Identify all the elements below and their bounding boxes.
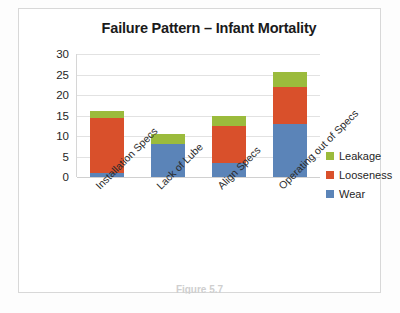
legend-swatch-icon [326, 190, 334, 198]
chart-legend: LeakageLoosenessWear [326, 147, 396, 204]
bar-segment-leakage [212, 116, 246, 126]
y-axis-tick-label: 15 [35, 110, 69, 122]
chart-title: Failure Pattern – Infant Mortality [59, 20, 359, 36]
legend-swatch-icon [326, 171, 334, 179]
y-axis-tick-label: 10 [35, 130, 69, 142]
legend-item[interactable]: Leakage [326, 147, 396, 164]
legend-item[interactable]: Looseness [326, 166, 396, 183]
legend-label: Looseness [339, 169, 392, 181]
plot-area [76, 54, 320, 177]
gridline [77, 54, 320, 55]
bar-segment-leakage [273, 72, 307, 86]
legend-item[interactable]: Wear [326, 185, 396, 202]
y-axis-tick-label: 0 [35, 171, 69, 183]
y-axis-tick-label: 25 [35, 69, 69, 81]
legend-label: Leakage [339, 150, 381, 162]
figure-frame: Failure Pattern – Infant Mortality Leaka… [18, 8, 381, 293]
y-axis-tick-label: 20 [35, 89, 69, 101]
legend-swatch-icon [326, 152, 334, 160]
bar-segment-looseness [273, 87, 307, 124]
legend-label: Wear [339, 188, 365, 200]
figure-caption: Figure 5.7 [19, 284, 380, 294]
bar-segment-leakage [90, 111, 124, 117]
y-axis-tick-label: 5 [35, 151, 69, 163]
y-axis-tick-label: 30 [35, 48, 69, 60]
